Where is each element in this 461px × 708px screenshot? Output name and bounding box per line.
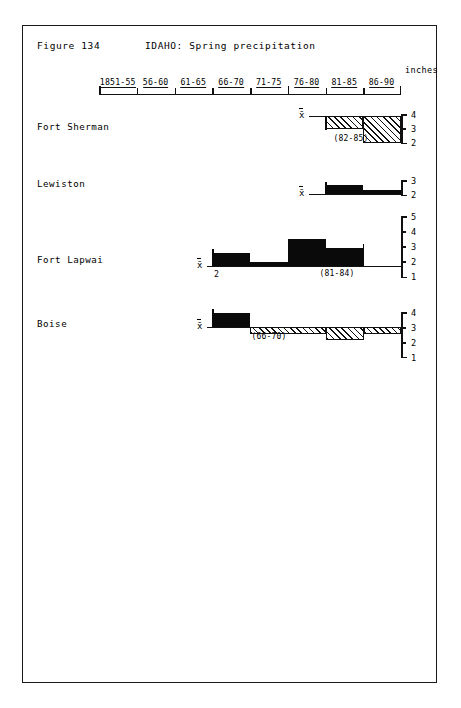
axis-period-label: 71-75 <box>256 77 282 88</box>
scale-label: 3 <box>411 125 416 133</box>
scale-tick <box>401 261 406 263</box>
bar-edge-tick <box>325 182 327 187</box>
station-fort-lapwai: Fort Lapwai x̄ 2 (81-84) 5 4 3 <box>23 216 436 288</box>
scale-cap-top <box>401 312 407 314</box>
scale-spine <box>401 312 403 358</box>
axis-period-label: 66-70 <box>218 77 244 88</box>
scale-label: 3 <box>411 177 416 185</box>
scale-label: 2 <box>411 258 416 266</box>
bar-86-90 <box>363 190 401 194</box>
mean-marker: x̄ <box>197 261 202 270</box>
scale-label: 4 <box>411 309 416 317</box>
scale-label: 4 <box>411 111 416 119</box>
mean-marker: x̄ <box>299 111 304 120</box>
bar-81-85 <box>325 116 363 129</box>
bar-66-70 <box>250 262 288 266</box>
station-lewiston: Lewiston x̄ 3 2 <box>23 168 436 214</box>
mean-line <box>207 266 401 267</box>
station-boise: Boise x̄ (66-70) 4 3 2 1 <box>23 298 436 368</box>
bar-86-90 <box>363 116 401 143</box>
station-plot: x̄ 2 (81-84) 5 4 3 2 1 <box>99 216 401 288</box>
station-label: Lewiston <box>37 178 85 189</box>
bar-edge-tick <box>212 249 214 255</box>
scale-tick <box>401 231 406 233</box>
bar-81-90 <box>364 327 401 334</box>
bar-81-85 <box>326 248 364 266</box>
scale-cap-bottom <box>401 143 407 145</box>
station-plot: x̄ (82-85) 4 3 2 <box>99 104 401 162</box>
station-plot: x̄ 3 2 <box>99 168 401 214</box>
axis-period-label: 76-80 <box>294 77 320 88</box>
axis-tick <box>175 88 177 95</box>
mean-line <box>309 194 401 195</box>
scale-label: 1 <box>411 273 416 281</box>
axis-tick <box>250 88 252 95</box>
scale-label: 2 <box>411 139 416 147</box>
axis-period-label: 1851-55 <box>100 77 136 88</box>
station-label: Fort Lapwai <box>37 254 103 265</box>
scale-label: 2 <box>411 339 416 347</box>
value-note: 2 <box>214 269 219 279</box>
axis-tick <box>363 88 365 95</box>
axis-period-label: 61-65 <box>180 77 206 88</box>
period-note: (82-85) <box>333 134 368 143</box>
bar-81-85 <box>325 185 363 194</box>
axis-tick <box>137 88 139 95</box>
axis-tick <box>326 88 328 95</box>
scale-tick <box>401 342 406 344</box>
mean-marker: x̄ <box>299 189 304 198</box>
scale-tick <box>401 128 406 130</box>
scale-cap-top <box>401 114 407 116</box>
figure-title: IDAHO: Spring precipitation <box>145 40 316 51</box>
period-note: (66-70) <box>251 332 286 341</box>
axis-tick <box>288 86 290 95</box>
scale-cap-bottom <box>401 357 407 359</box>
axis-tick <box>212 88 214 95</box>
scale-label: 3 <box>411 243 416 251</box>
figure-page: Figure 134 IDAHO: Spring precipitation i… <box>22 25 437 683</box>
scale-tick <box>401 246 406 248</box>
scale-label: 5 <box>411 213 416 221</box>
units-label: inches <box>405 65 438 75</box>
figure-number: Figure 134 <box>37 40 100 51</box>
scale-tick <box>401 327 406 329</box>
scale-cap-top <box>401 216 407 218</box>
axis-period-label: 86-90 <box>369 77 395 88</box>
station-fort-sherman: Fort Sherman x̄ (82-85) 4 3 2 <box>23 104 436 162</box>
bar-edge-tick <box>363 244 365 250</box>
mean-marker: x̄ <box>197 322 202 331</box>
scale-label: 2 <box>411 191 416 199</box>
axis-period-label: 81-85 <box>331 77 357 88</box>
scale-label: 4 <box>411 228 416 236</box>
station-label: Boise <box>37 318 67 329</box>
scale-cap-bottom <box>401 195 407 197</box>
bar-61-65 <box>212 313 250 327</box>
bar-76-80 <box>288 239 326 266</box>
scale-cap-top <box>401 180 407 182</box>
bar-76-80 <box>326 327 364 340</box>
scale-cap-bottom <box>401 277 407 279</box>
bar-edge-tick <box>212 309 214 315</box>
axis-tick <box>400 86 402 95</box>
scale-label: 1 <box>411 354 416 362</box>
time-axis: 1851-55 56-60 61-65 66-70 71-75 76-80 81… <box>99 83 401 95</box>
bar-edge-tick <box>325 116 327 130</box>
station-plot: x̄ (66-70) 4 3 2 1 <box>99 298 401 368</box>
period-note: (81-84) <box>319 269 354 278</box>
axis-period-label: 56-60 <box>143 77 169 88</box>
scale-label: 3 <box>411 324 416 332</box>
bar-61-65 <box>212 253 250 266</box>
